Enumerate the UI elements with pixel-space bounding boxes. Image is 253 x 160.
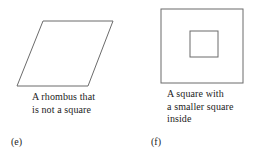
figure-panel-f: A square with a smaller square inside (f… — [140, 0, 253, 160]
figure-caption-f: A square with a smaller square inside — [167, 88, 253, 126]
inner-square-outline — [190, 31, 218, 57]
part-label-f: (f) — [151, 136, 161, 148]
figure-caption-e: A rhombus that is not a square — [32, 91, 137, 116]
rhombus-outline — [17, 21, 113, 86]
outer-square-outline — [161, 9, 243, 83]
rhombus-shape-area — [0, 0, 140, 95]
part-label-e: (e) — [11, 136, 22, 148]
figure-page: A rhombus that is not a square (e) A squ… — [0, 0, 253, 160]
nested-squares-shape-area — [140, 0, 253, 95]
nested-squares-svg — [140, 0, 253, 95]
figure-panel-e: A rhombus that is not a square (e) — [0, 0, 140, 160]
rhombus-svg — [0, 0, 140, 95]
